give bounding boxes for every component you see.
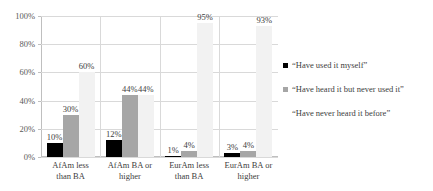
bar[interactable] — [106, 140, 122, 157]
plot-area: 10%30%60%12%44%44%1%4%95%3%4%93% — [41, 16, 278, 157]
bar[interactable] — [181, 151, 197, 157]
y-axis-tick-label: 100% — [15, 11, 35, 21]
legend: “Have used it myself”“Have heard it but … — [283, 60, 433, 132]
gridline — [41, 157, 278, 158]
bar-slot: 4% — [181, 16, 197, 157]
x-axis-category-label: EurAm lessthan BA — [160, 160, 219, 182]
y-axis-tick-label: 80% — [19, 39, 35, 49]
legend-swatch-icon — [283, 63, 288, 68]
bar-value-label: 12% — [106, 129, 122, 139]
bar-slot: 60% — [79, 16, 95, 157]
legend-label: “Have never heard it before” — [292, 108, 390, 119]
legend-item[interactable]: “Have used it myself” — [283, 60, 433, 71]
x-axis-category-label-line: than BA — [160, 171, 219, 182]
x-axis-category-label-line: AfAm less — [41, 160, 100, 171]
bar-group: 12%44%44% — [100, 16, 159, 157]
legend-label: “Have heard it but never used it” — [292, 84, 404, 95]
x-axis-labels: AfAm lessthan BAAfAm BA orhigherEurAm le… — [41, 160, 278, 191]
bar-slot: 44% — [138, 16, 154, 157]
bar-value-label: 10% — [47, 132, 63, 142]
bar[interactable] — [122, 95, 138, 157]
bar[interactable] — [224, 153, 240, 157]
bar-slot: 93% — [256, 16, 272, 157]
y-axis: 100%80%60%40%20%0% — [0, 16, 38, 157]
bar-group: 1%4%95% — [160, 16, 219, 157]
bar[interactable] — [197, 23, 213, 157]
bar[interactable] — [79, 72, 95, 157]
bar-slot: 95% — [197, 16, 213, 157]
x-axis-category-label-line: higher — [100, 171, 159, 182]
legend-swatch-icon — [283, 111, 288, 116]
bar-group: 10%30%60% — [41, 16, 100, 157]
bar-slot: 44% — [122, 16, 138, 157]
bar-value-label: 60% — [79, 61, 95, 71]
x-axis-category-label-line: EurAm BA or — [219, 160, 278, 171]
x-axis-category-label: EurAm BA orhigher — [219, 160, 278, 182]
bar-value-label: 93% — [257, 15, 273, 25]
bar[interactable] — [240, 151, 256, 157]
legend-item[interactable]: “Have never heard it before” — [283, 108, 433, 119]
x-axis-category-label: AfAm lessthan BA — [41, 160, 100, 182]
x-axis-category-label: AfAm BA orhigher — [100, 160, 159, 182]
bar-slot: 1% — [165, 16, 181, 157]
bar-chart: 100%80%60%40%20%0% 10%30%60%12%44%44%1%4… — [0, 0, 433, 191]
bar-value-label: 95% — [197, 12, 213, 22]
bar[interactable] — [138, 95, 154, 157]
y-axis-tick-label: 60% — [19, 67, 35, 77]
y-axis-tickmark — [38, 157, 41, 158]
bar-group: 3%4%93% — [219, 16, 278, 157]
bar[interactable] — [47, 143, 63, 157]
legend-item[interactable]: “Have heard it but never used it” — [283, 84, 433, 95]
x-axis-category-label-line: EurAm less — [160, 160, 219, 171]
bar-value-label: 3% — [227, 142, 238, 152]
bar[interactable] — [165, 156, 181, 157]
x-axis-category-label-line: than BA — [41, 171, 100, 182]
x-axis-category-label-line: higher — [219, 171, 278, 182]
bar-value-label: 44% — [138, 84, 154, 94]
y-axis-tick-label: 0% — [24, 152, 35, 162]
bar-slot: 30% — [63, 16, 79, 157]
bar-slot: 12% — [106, 16, 122, 157]
bar-value-label: 4% — [243, 140, 254, 150]
x-axis-category-label-line: AfAm BA or — [100, 160, 159, 171]
bar-slot: 10% — [47, 16, 63, 157]
bar-value-label: 1% — [167, 145, 178, 155]
y-axis-tick-label: 40% — [19, 96, 35, 106]
bar-slot: 3% — [224, 16, 240, 157]
bar-value-label: 30% — [63, 104, 79, 114]
legend-label: “Have used it myself” — [292, 60, 367, 71]
bar-value-label: 44% — [122, 84, 138, 94]
bar[interactable] — [63, 115, 79, 157]
legend-swatch-icon — [283, 87, 288, 92]
bar-slot: 4% — [240, 16, 256, 157]
y-axis-tick-label: 20% — [19, 124, 35, 134]
bar[interactable] — [256, 26, 272, 157]
bar-value-label: 4% — [183, 140, 194, 150]
